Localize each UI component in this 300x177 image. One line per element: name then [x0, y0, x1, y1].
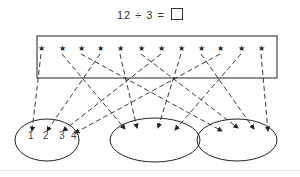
- group-ellipses: [15, 118, 277, 162]
- star-icon: ★: [238, 44, 245, 53]
- star-icon: ★: [117, 44, 124, 53]
- dashed-arrow: [175, 54, 241, 130]
- dashed-arrow: [62, 54, 125, 129]
- dashed-arrow: [81, 54, 222, 131]
- count-number: 2: [43, 130, 49, 141]
- group-3-ellipse: [197, 119, 277, 161]
- diagram-canvas: ★★★★★★★★★★★★: [0, 0, 300, 177]
- divider: [0, 170, 300, 171]
- star-icon: ★: [158, 44, 165, 53]
- star-icon: ★: [59, 44, 66, 53]
- dashed-arrow: [141, 54, 238, 128]
- dashed-arrow: [158, 54, 181, 128]
- star-icon: ★: [97, 44, 104, 53]
- count-number: 1: [28, 130, 34, 141]
- dashed-arrow: [75, 54, 220, 133]
- group-2-ellipse: [110, 118, 200, 162]
- star-icon: ★: [198, 44, 205, 53]
- dashed-arrow: [261, 54, 268, 131]
- star-icon: ★: [38, 44, 45, 53]
- dashed-arrow: [63, 54, 161, 131]
- count-number: 3: [59, 130, 65, 141]
- star-icon: ★: [258, 44, 265, 53]
- star-icon: ★: [178, 44, 185, 53]
- star-icon: ★: [217, 44, 224, 53]
- stars: ★★★★★★★★★★★★: [38, 44, 265, 53]
- arrows: [32, 54, 268, 133]
- dashed-arrow: [120, 54, 137, 128]
- star-icon: ★: [78, 44, 85, 53]
- star-icon: ★: [138, 44, 145, 53]
- count-number: 4: [71, 130, 77, 141]
